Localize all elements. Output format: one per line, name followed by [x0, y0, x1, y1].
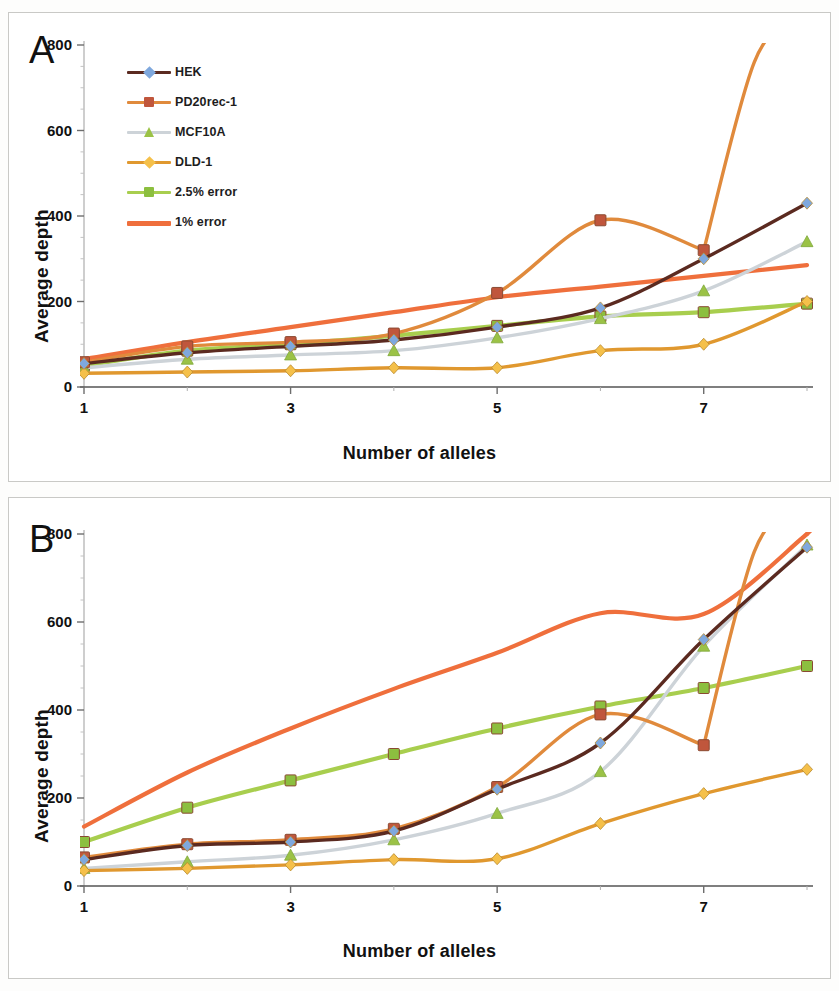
series-line: [84, 545, 807, 868]
data-point-diamond-icon: [698, 338, 709, 350]
data-point-square-icon: [698, 307, 709, 318]
series-line: [84, 769, 807, 870]
axes: 02004006008001357: [47, 525, 813, 915]
x-tick-label: 3: [286, 399, 294, 416]
legend-marker-square-icon: [144, 97, 154, 107]
y-tick-label: 0: [64, 378, 72, 395]
data-point-square-icon: [492, 287, 503, 298]
legend-swatch-icon: [127, 215, 171, 229]
data-point-square-icon: [388, 749, 399, 760]
chart-svg: 02004006008001357: [84, 530, 819, 920]
panel-a-y-axis-label: Average depth: [31, 209, 53, 343]
y-tick-label: 800: [47, 525, 72, 542]
y-tick-label: 600: [47, 613, 72, 630]
data-point-square-icon: [492, 723, 503, 734]
data-point-square-icon: [698, 740, 709, 751]
legend-swatch-icon: [127, 155, 171, 169]
x-tick-label: 1: [80, 898, 88, 915]
legend-label: DLD-1: [175, 155, 212, 169]
x-tick-label: 1: [80, 399, 88, 416]
series-group: [78, 504, 836, 877]
legend-swatch-icon: [127, 65, 171, 79]
data-point-diamond-icon: [802, 197, 813, 209]
y-tick-label: 200: [47, 293, 72, 310]
y-tick-label: 800: [47, 36, 72, 53]
legend-label: PD20rec-1: [175, 95, 237, 109]
y-tick-label: 400: [47, 207, 72, 224]
series-line-offscale: [807, 506, 836, 534]
series-2-5-error: [79, 661, 813, 848]
x-tick-label: 3: [286, 898, 294, 915]
legend-label: 1% error: [175, 215, 227, 229]
legend-label: MCF10A: [175, 125, 226, 139]
data-point-square-icon: [182, 802, 193, 813]
y-tick-label: 400: [47, 701, 72, 718]
legend-marker-triangle-icon: [144, 127, 154, 137]
legend-item-1-error[interactable]: 1% error: [127, 207, 237, 237]
series-hek: [79, 541, 813, 865]
panel-b: B Average depth Number of alleles 020040…: [8, 497, 831, 979]
legend-item-mcf10a[interactable]: MCF10A: [127, 117, 237, 147]
data-point-square-icon: [802, 661, 813, 672]
data-point-diamond-icon: [388, 854, 399, 866]
data-point-diamond-icon: [802, 763, 813, 775]
panel-a-x-axis-label: Number of alleles: [9, 443, 830, 464]
data-point-diamond-icon: [285, 859, 296, 871]
legend-item-2-5-error[interactable]: 2.5% error: [127, 177, 237, 207]
data-point-diamond-icon: [595, 818, 606, 830]
legend-marker-square-icon: [144, 187, 154, 197]
legend-swatch-icon: [127, 185, 171, 199]
data-point-diamond-icon: [285, 365, 296, 377]
data-point-diamond-icon: [595, 345, 606, 357]
data-point-triangle-icon: [801, 236, 813, 247]
y-tick-label: 200: [47, 789, 72, 806]
x-tick-label: 5: [493, 399, 501, 416]
legend-swatch-icon: [127, 125, 171, 139]
x-tick-label: 7: [700, 898, 708, 915]
legend-item-dld-1[interactable]: DLD-1: [127, 147, 237, 177]
legend-marker-diamond-icon: [143, 156, 156, 169]
data-point-diamond-icon: [492, 362, 503, 374]
legend-item-pd20rec-1[interactable]: PD20rec-1: [127, 87, 237, 117]
data-point-diamond-icon: [388, 362, 399, 374]
legend-label: 2.5% error: [175, 185, 237, 199]
data-point-diamond-icon: [492, 853, 503, 865]
legend-item-hek[interactable]: HEK: [127, 57, 237, 87]
data-point-square-icon: [595, 709, 606, 720]
panel-a-legend: HEKPD20rec-1MCF10ADLD-12.5% error1% erro…: [127, 57, 237, 237]
data-point-square-icon: [285, 775, 296, 786]
series-mcf10a: [78, 539, 813, 873]
series-line: [84, 534, 807, 827]
panel-b-plot-area: 02004006008001357: [84, 530, 819, 920]
data-point-diamond-icon: [698, 788, 709, 800]
data-point-diamond-icon: [79, 865, 90, 877]
panel-a: A Average depth Number of alleles 020040…: [8, 12, 831, 482]
legend-label: HEK: [175, 65, 202, 79]
legend-marker-diamond-icon: [143, 66, 156, 79]
figure-container: A Average depth Number of alleles 020040…: [0, 0, 839, 991]
legend-swatch-icon: [127, 95, 171, 109]
panel-b-y-axis-label: Average depth: [31, 709, 53, 843]
y-tick-label: 600: [47, 122, 72, 139]
y-tick-label: 0: [64, 877, 72, 894]
data-point-square-icon: [698, 683, 709, 694]
data-point-diamond-icon: [182, 366, 193, 378]
data-point-square-icon: [79, 837, 90, 848]
x-tick-label: 5: [493, 898, 501, 915]
data-point-square-icon: [595, 215, 606, 226]
panel-b-x-axis-label: Number of alleles: [9, 941, 830, 962]
x-tick-label: 7: [700, 399, 708, 416]
